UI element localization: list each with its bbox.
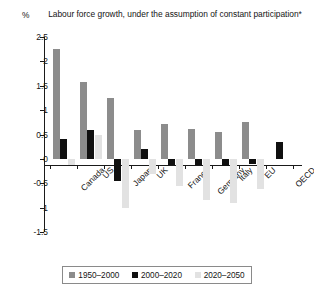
- x-axis-tick-mark: [131, 165, 132, 169]
- bar: [249, 159, 256, 164]
- bar: [161, 124, 168, 159]
- y-axis-tick-mark: [40, 208, 44, 209]
- bar: [195, 159, 202, 165]
- bar: [141, 149, 148, 159]
- x-axis-tick-mark: [185, 165, 186, 169]
- legend-swatch-icon: [69, 272, 75, 278]
- y-axis-tick-mark: [40, 110, 44, 111]
- legend-entry: 1950–2000: [69, 271, 119, 280]
- chart-legend: 1950–20002000–20202020–2050: [62, 266, 252, 284]
- y-axis-tick-mark: [40, 86, 44, 87]
- y-axis-tick-mark: [40, 61, 44, 62]
- legend-entry: 2020–2050: [195, 271, 245, 280]
- x-axis-tick-mark: [212, 165, 213, 169]
- y-axis-tick-mark: [40, 232, 44, 233]
- bar: [230, 159, 237, 203]
- bar: [168, 159, 175, 165]
- bar: [68, 159, 75, 165]
- bar: [80, 82, 87, 159]
- bar: [107, 98, 114, 159]
- bar: [176, 159, 183, 186]
- y-axis-tick-mark: [40, 135, 44, 136]
- legend-label: 2020–2050: [204, 271, 245, 280]
- y-axis-unit-label: %: [22, 10, 29, 20]
- bar: [188, 129, 195, 159]
- bar: [122, 159, 129, 208]
- bar: [95, 135, 102, 158]
- x-axis-tick-mark: [293, 165, 294, 169]
- plot-area: 2.521.510.50-0.5-1-1.5: [44, 37, 302, 232]
- bar: [276, 142, 283, 159]
- bar: [149, 159, 156, 174]
- bar: [53, 49, 60, 159]
- bar: [257, 159, 264, 189]
- legend-label: 2000–2020: [141, 271, 182, 280]
- bar: [203, 159, 210, 200]
- legend-swatch-icon: [132, 272, 138, 278]
- chart-title: Labour force growth, under the assumptio…: [46, 9, 304, 21]
- x-axis-tick-mark: [50, 165, 51, 169]
- bar: [215, 132, 222, 159]
- bar: [242, 122, 249, 159]
- bar: [114, 159, 121, 181]
- legend-entry: 2000–2020: [132, 271, 182, 280]
- x-axis-tick-mark: [77, 165, 78, 169]
- legend-swatch-icon: [195, 272, 201, 278]
- y-axis-tick-mark: [40, 159, 44, 160]
- y-axis-tick-mark: [40, 183, 44, 184]
- y-axis-tick-mark: [40, 37, 44, 38]
- bar: [222, 159, 229, 166]
- bar: [60, 139, 67, 159]
- legend-label: 1950–2000: [78, 271, 119, 280]
- bar: [87, 130, 94, 159]
- bar: [134, 130, 141, 159]
